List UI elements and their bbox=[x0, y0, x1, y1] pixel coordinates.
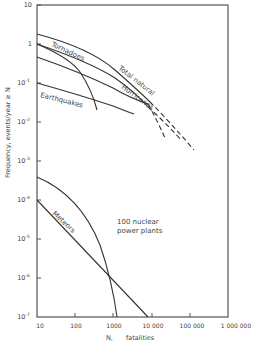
y-tick-label: 10-2 bbox=[17, 117, 30, 126]
y-tick-label: 10-1 bbox=[17, 78, 30, 87]
x-tick-labels: 10 100 1000 10 000 100 000 1 000 000 bbox=[36, 322, 251, 329]
x-tick-label: 100 000 bbox=[180, 322, 205, 329]
y-tick-label: 10-3 bbox=[17, 156, 30, 165]
x-tick-label: 1 000 000 bbox=[221, 322, 252, 329]
series-nuclear-power-plants bbox=[37, 177, 117, 317]
label-nuclear-line2: power plants bbox=[117, 227, 163, 235]
series-total-natural-dashed bbox=[150, 102, 194, 150]
y-tick-label: 10-4 bbox=[17, 195, 30, 204]
y-tick-label: 10 bbox=[24, 1, 32, 9]
frequency-vs-fatalities-chart: 10 1 10-1 10-2 10-3 10-4 10-5 10-6 10-7 … bbox=[0, 0, 258, 344]
x-axis-label-n: N, bbox=[106, 334, 113, 342]
y-tick-label: 10-5 bbox=[17, 234, 30, 243]
y-tick-label: 10-6 bbox=[17, 273, 30, 282]
x-tick-label: 10 000 bbox=[143, 322, 164, 329]
y-tick-label: 10-7 bbox=[17, 312, 30, 321]
label-meteors: Meteors bbox=[51, 210, 77, 235]
x-axis-label-fatalities: fatalities bbox=[126, 334, 155, 342]
label-earthquakes: Earthquakes bbox=[40, 91, 85, 109]
series-hurricanes-dashed bbox=[148, 107, 182, 141]
series-labels: Tornadoes Total natural Hurricanes Earth… bbox=[40, 40, 163, 235]
y-tick-labels: 10 1 10-1 10-2 10-3 10-4 10-5 10-6 10-7 bbox=[17, 1, 32, 321]
x-tick-label: 100 bbox=[70, 322, 82, 329]
y-axis-label: Frequency, events/year ≥ N bbox=[4, 87, 12, 178]
x-tick-label: 1000 bbox=[106, 322, 121, 329]
y-tick-label: 1 bbox=[28, 40, 32, 48]
label-nuclear-line1: 100 nuclear bbox=[117, 218, 159, 226]
x-tick-label: 10 bbox=[36, 322, 44, 329]
